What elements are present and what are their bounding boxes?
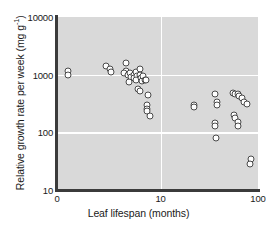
data-point-marker <box>65 71 72 78</box>
data-point-marker <box>211 90 218 97</box>
data-point-marker <box>122 59 129 66</box>
y-axis-tick-labels: 10100100010000 <box>0 0 53 231</box>
data-point-marker <box>212 134 219 141</box>
y-axis-line <box>55 15 58 192</box>
y-axis-tick-label: 1000 <box>33 69 53 80</box>
x-axis-tick-label: 10 <box>155 193 165 204</box>
gridline-vertical <box>161 17 163 190</box>
y-axis-tick-label: 100 <box>38 127 53 138</box>
data-point-marker <box>214 101 221 108</box>
y-axis-title: Relative growth rate per week (mg g-1) <box>12 13 26 193</box>
x-axis-line <box>55 189 260 192</box>
data-point-marker <box>190 104 197 111</box>
data-point-marker <box>108 69 115 76</box>
data-point-marker <box>137 88 144 95</box>
data-point-marker <box>235 122 242 129</box>
x-axis-title: Leaf lifespan (months) <box>0 207 277 219</box>
y-axis-title-text: Relative growth rate per week (mg g <box>14 25 26 190</box>
data-point-marker <box>211 122 218 129</box>
y-axis-title-tail: ) <box>14 15 26 18</box>
gridline-horizontal <box>57 132 258 134</box>
y-axis-tick-label: 10000 <box>28 12 53 23</box>
y-axis-title-exponent: -1 <box>12 19 21 25</box>
data-point-marker <box>143 77 150 84</box>
gridline-horizontal <box>57 75 258 77</box>
data-point-marker <box>146 113 153 120</box>
scatter-plot-figure: 10100100010000 Leaf lifespan (months) Re… <box>0 0 277 231</box>
data-point-marker <box>244 100 251 107</box>
plot-area <box>57 17 258 190</box>
y-axis-tick-label: 10 <box>43 185 53 196</box>
x-axis-tick-label: 0 <box>54 193 59 204</box>
x-axis-tick-label: 100 <box>250 193 265 204</box>
data-point-marker <box>145 91 152 98</box>
data-point-marker <box>247 161 254 168</box>
